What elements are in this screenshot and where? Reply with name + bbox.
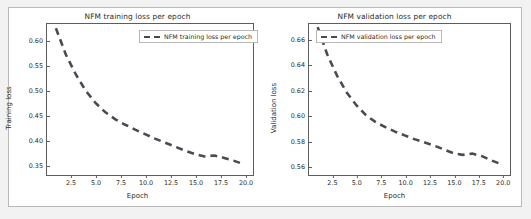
x-axis-label-validation: Epoch <box>266 192 523 200</box>
plot-area-training: NFM training loss per epoch 0.350.400.45… <box>46 23 254 176</box>
y-tick-label: 0.45 <box>29 112 47 120</box>
figure-root: NFM training loss per epoch NFM training… <box>0 0 531 219</box>
x-tick-label: 5.0 <box>91 175 101 187</box>
legend-label-validation: NFM validation loss per epoch <box>341 33 436 40</box>
plot-area-validation: NFM validation loss per epoch 0.560.580.… <box>308 23 511 176</box>
y-tick-label: 0.40 <box>29 137 47 145</box>
x-tick-label: 2.5 <box>66 175 76 187</box>
y-tick-label: 0.62 <box>291 87 309 95</box>
legend-training: NFM training loss per epoch <box>139 30 258 43</box>
chart-panel-training: NFM training loss per epoch NFM training… <box>9 8 266 208</box>
x-tick-label: 5.0 <box>352 175 362 187</box>
chart-title-training: NFM training loss per epoch <box>9 12 266 21</box>
chart-title-validation: NFM validation loss per epoch <box>266 12 523 21</box>
x-tick-label: 20.0 <box>239 175 253 187</box>
y-tick-label: 0.66 <box>291 36 309 44</box>
legend-line-swatch-icon <box>321 36 337 38</box>
x-tick-label: 17.5 <box>214 175 228 187</box>
y-tick-label: 0.56 <box>291 163 309 171</box>
y-tick-label: 0.64 <box>291 61 309 69</box>
training-loss-line-series <box>47 24 253 175</box>
x-tick-label: 20.0 <box>496 175 510 187</box>
x-tick-label: 17.5 <box>472 175 486 187</box>
validation-loss-line-series <box>309 24 510 175</box>
x-tick-label: 15.0 <box>189 175 203 187</box>
y-tick-label: 0.35 <box>29 162 47 170</box>
x-tick-label: 7.5 <box>116 175 126 187</box>
legend-line-swatch-icon <box>144 36 160 38</box>
x-tick-label: 7.5 <box>376 175 386 187</box>
x-tick-label: 10.0 <box>398 175 412 187</box>
x-tick-label: 10.0 <box>139 175 153 187</box>
x-tick-label: 12.5 <box>164 175 178 187</box>
y-tick-label: 0.60 <box>291 112 309 120</box>
y-tick-label: 0.50 <box>29 87 47 95</box>
y-tick-label: 0.58 <box>291 138 309 146</box>
x-axis-label-training: Epoch <box>9 192 266 200</box>
y-axis-label-validation: Validation loss <box>270 83 278 133</box>
chart-panel-validation: NFM validation loss per epoch NFM valida… <box>266 8 523 208</box>
y-tick-label: 0.60 <box>29 37 47 45</box>
y-axis-label-training: Training loss <box>5 86 13 129</box>
y-tick-label: 0.55 <box>29 62 47 70</box>
x-tick-label: 15.0 <box>447 175 461 187</box>
x-tick-label: 2.5 <box>327 175 337 187</box>
legend-label-training: NFM training loss per epoch <box>164 33 252 40</box>
figure-frame: NFM training loss per epoch NFM training… <box>8 7 522 207</box>
legend-validation: NFM validation loss per epoch <box>316 30 442 43</box>
x-tick-label: 12.5 <box>423 175 437 187</box>
